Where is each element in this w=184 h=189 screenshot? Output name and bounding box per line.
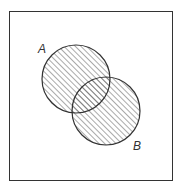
set-b-label: B: [133, 139, 141, 153]
venn-diagram: A B: [0, 0, 184, 189]
set-a-label: A: [37, 42, 46, 56]
